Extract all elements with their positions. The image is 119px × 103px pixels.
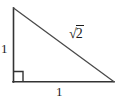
- horizontal-leg-label: 1: [56, 85, 63, 98]
- vertical-leg-label: 1: [1, 42, 8, 55]
- radicand-value: 2: [76, 25, 84, 41]
- square-root-expression: √2: [69, 25, 84, 41]
- right-angle-marker-icon: [14, 72, 24, 83]
- hypotenuse-label: √2: [69, 25, 84, 41]
- triangle-hypotenuse: [14, 8, 115, 82]
- right-triangle-figure: 1 1 √2: [0, 0, 119, 103]
